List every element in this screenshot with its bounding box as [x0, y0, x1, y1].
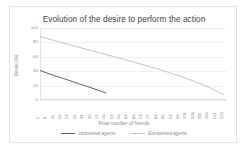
y-axis-label: Desire (%) [14, 43, 19, 89]
x-tick-label: 11 [51, 115, 55, 119]
x-axis-ticks: 1611162126313641465156616671768186919610… [40, 101, 227, 119]
x-tick-label: 91 [168, 114, 172, 119]
x-tick-label: 126 [220, 112, 224, 119]
x-tick-label: 96 [176, 114, 180, 119]
x-tick-label: 111 [198, 113, 202, 119]
plot-area [40, 28, 227, 100]
series-line [40, 70, 106, 93]
legend-entry[interactable]: Extraverted agents [131, 131, 187, 136]
series-line [40, 37, 224, 95]
x-tick-label: 66 [132, 114, 136, 119]
x-tick-label: 36 [87, 114, 91, 119]
x-tick-label: 81 [154, 114, 158, 119]
y-axis-ticks: 100806040200 [24, 28, 38, 100]
x-tick-label: 41 [95, 114, 99, 119]
x-tick-label: 61 [124, 114, 128, 119]
x-tick-label: 101 [183, 112, 187, 119]
x-tick-label: 6 [43, 117, 47, 119]
x-tick-label: 21 [65, 114, 69, 119]
y-tick-label: 100 [24, 26, 38, 30]
x-tick-label: 71 [139, 114, 143, 119]
legend-swatch-icon [61, 133, 75, 135]
legend-swatch-icon [131, 133, 145, 135]
x-tick-label: 31 [80, 114, 84, 119]
chart-figure: Evolution of the desire to perform the a… [9, 6, 237, 143]
y-tick-label: 80 [24, 40, 38, 44]
x-tick-label: 1 [36, 117, 40, 119]
x-tick-label: 46 [102, 114, 106, 119]
y-tick-label: 40 [24, 69, 38, 73]
y-tick-label: 60 [24, 55, 38, 59]
x-tick-label: 16 [58, 114, 62, 119]
legend-label: Introverted agents [78, 131, 115, 136]
chart-legend: Introverted agentsExtraverted agents [10, 131, 238, 136]
x-tick-label: 56 [117, 114, 121, 119]
x-tick-label: 116 [205, 112, 209, 119]
legend-label: Extraverted agents [148, 131, 187, 136]
series-lines [40, 28, 227, 100]
y-tick-label: 20 [24, 83, 38, 87]
legend-entry[interactable]: Introverted agents [61, 131, 115, 136]
x-tick-label: 106 [190, 112, 194, 119]
x-tick-label: 121 [212, 112, 216, 119]
x-tick-label: 26 [73, 114, 77, 119]
x-axis-label: Final number of friends [10, 120, 238, 126]
x-tick-label: 76 [146, 114, 150, 119]
x-tick-label: 51 [109, 114, 113, 119]
chart-title: Evolution of the desire to perform the a… [10, 14, 238, 24]
x-tick-label: 86 [161, 114, 165, 119]
y-tick-label: 0 [24, 98, 38, 102]
